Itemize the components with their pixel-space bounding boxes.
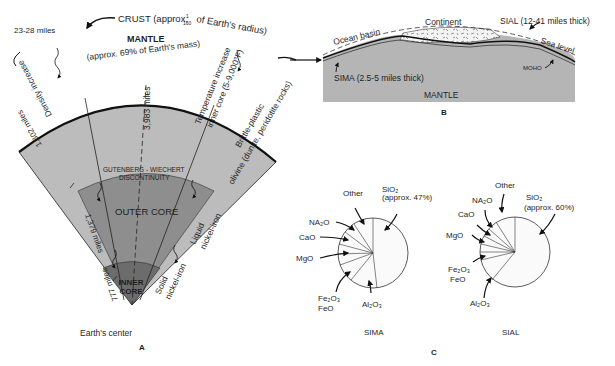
mantle-depth: 1,802 miles [15,109,43,149]
discontinuity-line1: GUTENBERG - WIECHERT [103,166,185,173]
sima-al2o3: Al₂O₃ [362,300,382,309]
sial-fe-line2: FeO [450,275,466,284]
sial-title: SIAL [502,328,520,337]
sial-label: SIAL (12-41 miles thick) [500,16,590,26]
panel-b-label: B [441,108,447,117]
sial-other: Other [495,181,515,190]
inner-core-line2: CORE [119,287,143,296]
sima-pie-chart [320,208,408,293]
radius-label: 3,983 miles [142,87,152,130]
sial-cao: CaO [458,210,474,219]
sial-al2o3: Al₂O₃ [470,299,490,308]
earths-center-label: Earth's center [80,328,132,338]
sima-mgo: MgO [296,254,313,263]
sima-title: SIMA [364,328,384,337]
continent-block [400,27,500,43]
panel-c-label: C [431,348,437,357]
crust-fraction-den: 160 [183,20,192,26]
crust-thickness: 23-28 miles [14,26,55,35]
sima-fe-line1: Fe₂O₃ [318,294,340,303]
moho-label: MOHO [523,65,542,71]
profile-mantle-label: MANTLE [424,90,459,100]
inner-core-line1: INNER [119,278,144,287]
crust-label: CRUST (approx. [118,13,188,24]
sial-sio2-line1: SiO₂ [526,193,542,202]
sial-mgo: MgO [446,231,463,240]
sial-na2o: NA₂O [472,196,492,205]
sima-sio2-line2: (approx. 47%) [382,193,433,202]
sima-other: Other [343,189,363,198]
sial-fe-line1: Fe₂O₃ [448,265,470,274]
crust-fraction-num: 1 [186,13,189,19]
sima-na2o: NA₂O [309,218,329,227]
density-label: Density increase [15,58,53,118]
panel-a-label: A [139,343,145,352]
sima-fe-line2: FeO [318,304,334,313]
discontinuity-line2: DISCONTINUITY [119,174,170,181]
sima-cao: CaO [299,233,315,242]
earth-cross-section [14,18,296,305]
sima-label: SIMA (2.5-5 miles thick) [334,73,424,83]
earth-structure-figure: CRUST (approx. 1 160 of Earth's radius) … [0,0,615,366]
sial-sio2-line2: (approx. 60%) [524,203,575,212]
outer-core-title: OUTER CORE [115,206,178,217]
crust-label-tail: of Earth's radius) [196,13,268,36]
continent-label: Continent [425,17,462,27]
